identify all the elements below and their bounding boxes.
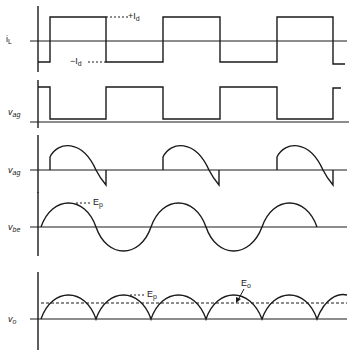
vag-square-waveform — [38, 87, 341, 119]
vag-segment-wave-3 — [277, 146, 333, 185]
panel-vag-segment — [30, 135, 347, 193]
vbe-label: vbe — [8, 223, 20, 233]
minus-id-label: −Id — [70, 57, 82, 67]
ep-label-vo: Ep — [147, 290, 157, 300]
vag-segment-label: vag — [8, 166, 20, 176]
vo-label: vo — [8, 315, 16, 325]
panel-vag-square — [30, 80, 349, 128]
vo-waveform — [41, 295, 347, 319]
waveform-diagram — [0, 0, 357, 357]
panel-vo — [30, 272, 347, 350]
il-label: iL — [6, 35, 12, 45]
vag-segment-wave-2 — [163, 146, 219, 185]
eo-label: Eo — [241, 279, 251, 289]
vag-segment-wave-1 — [50, 146, 106, 185]
eo-arrow-head — [236, 297, 241, 303]
ep-label-vbe: Ep — [93, 198, 103, 208]
panel-vbe — [30, 192, 347, 256]
vag-square-label: vag — [8, 108, 20, 118]
plus-id-label: +Id — [128, 12, 140, 22]
